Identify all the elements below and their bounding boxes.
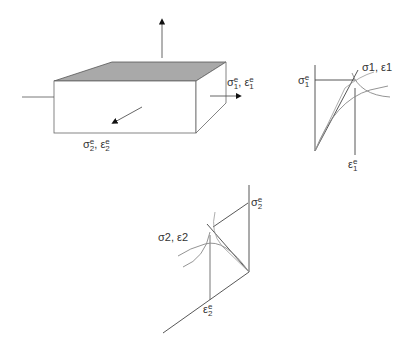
chart2-strain-tick: εe2 [203, 303, 212, 317]
chart-1 [315, 65, 390, 155]
front-face [54, 81, 196, 133]
chart2-stress-tick: σe2 [251, 196, 262, 210]
label-sigma1e-eps1e: σe1, εe1 [227, 76, 254, 90]
mechanics-diagram [0, 0, 406, 347]
chart1-stress-tick: σe1 [298, 74, 309, 88]
chart1-strain-tick: εe1 [348, 158, 357, 172]
chart2-curve-label: σ2, ε2 [158, 232, 188, 243]
chart1-curve-label: σ1, ε1 [362, 62, 392, 73]
material-block [22, 62, 226, 133]
label-sigma2e-eps2e: σe2, εe2 [83, 138, 110, 152]
